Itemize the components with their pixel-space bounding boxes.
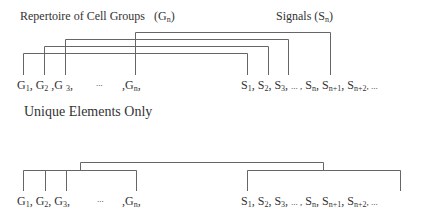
groups-symbol-close: ) [171, 9, 175, 23]
seq-part: , G [30, 78, 45, 92]
signals-symbol: (S [314, 9, 325, 23]
seq-ellipsis: , ... [366, 81, 377, 91]
seq-part: ,G [48, 78, 66, 92]
group-bracket [24, 171, 137, 192]
signals-symbol-close: ) [329, 9, 333, 23]
seq-ellipsis: , ... [366, 197, 377, 207]
groups-title: Repertoire of Cell Groups (Gn) [20, 9, 175, 24]
seq-part: S [241, 194, 248, 208]
seq-part: , S [341, 194, 354, 208]
signals-title-text: Signals [276, 9, 311, 23]
top-groups-gn: ,Gn, [122, 78, 141, 93]
top-signals-sequence: S1, S2, S3, ... , Sn, Sn+1, Sn+2, ... [241, 78, 378, 93]
seq-part: , S [316, 78, 329, 92]
seq-part: G [17, 78, 26, 92]
seq-ellipsis: ... , [291, 197, 302, 207]
seq-part: , [138, 194, 141, 208]
seq-part: , [138, 78, 141, 92]
top-groups-ellipsis: ... [96, 78, 103, 88]
seq-part: , [285, 194, 288, 208]
seq-part: , G [48, 194, 63, 208]
section-label: Unique Elements Only [24, 104, 152, 120]
groups-title-text: Repertoire of Cell Groups [20, 9, 145, 23]
seq-part: , S [341, 78, 354, 92]
seq-part: S [241, 78, 248, 92]
seq-part: , S [268, 194, 281, 208]
seq-part: ,G [122, 78, 134, 92]
seq-part: , [285, 78, 288, 92]
bottom-groups-gn: ,Gn, [122, 194, 141, 208]
bottom-groups-ellipsis: ... [97, 194, 104, 204]
bottom-signals-sequence: S1, S2, S3, ... , Sn, Sn+1, Sn+2, ... [241, 194, 378, 208]
signals-title: Signals (Sn) [276, 9, 333, 24]
seq-part: , S [252, 78, 265, 92]
link-g3-s3 [66, 40, 289, 76]
seq-part: S [305, 194, 312, 208]
seq-part: G [17, 194, 26, 208]
bracket-connector [81, 163, 324, 171]
bottom-groups-sequence: G1, G2, G3, [17, 194, 70, 208]
link-g2-s2 [45, 47, 269, 76]
top-groups-sequence: G1, G2 ,G 3, [17, 78, 73, 93]
seq-sub: n+2 [354, 200, 367, 208]
seq-part: , G [30, 194, 45, 208]
groups-symbol: (G [154, 9, 167, 23]
seq-ellipsis: ... , [291, 81, 302, 91]
seq-sub: n+1 [329, 200, 342, 208]
seq-part: S [305, 78, 312, 92]
seq-part: , S [316, 194, 329, 208]
seq-sub: n+1 [329, 84, 342, 93]
seq-part: , [67, 194, 70, 208]
signal-bracket [248, 171, 401, 192]
seq-part: , [70, 78, 73, 92]
seq-sub: n+2 [354, 84, 367, 93]
seq-part: , S [268, 78, 281, 92]
seq-part: , S [252, 194, 265, 208]
seq-part: ,G [122, 194, 134, 208]
